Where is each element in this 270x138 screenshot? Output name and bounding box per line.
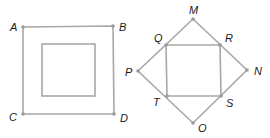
point-q bbox=[164, 43, 168, 47]
label-o: O bbox=[198, 122, 207, 134]
figure-abcd: A B C D bbox=[9, 21, 128, 124]
label-n: N bbox=[254, 65, 262, 77]
label-a: A bbox=[9, 21, 17, 33]
point-a bbox=[21, 25, 25, 29]
label-r: R bbox=[225, 32, 233, 44]
point-d bbox=[112, 112, 116, 116]
geometry-diagram: A B C D M Q R P N T S O bbox=[0, 0, 270, 138]
point-s bbox=[219, 94, 223, 98]
label-c: C bbox=[9, 111, 17, 123]
label-m: M bbox=[189, 4, 199, 16]
figure-mnop: M Q R P N T S O bbox=[125, 4, 262, 134]
point-t bbox=[165, 94, 169, 98]
inner-square-qrst bbox=[166, 45, 221, 96]
label-q: Q bbox=[154, 32, 163, 44]
point-m bbox=[191, 17, 195, 21]
point-n bbox=[245, 68, 249, 72]
inner-square-left bbox=[42, 44, 95, 96]
label-d: D bbox=[120, 112, 128, 124]
point-b bbox=[111, 24, 115, 28]
label-p: P bbox=[125, 66, 133, 78]
outer-square-abcd bbox=[23, 26, 114, 114]
label-b: B bbox=[119, 21, 126, 33]
label-s: S bbox=[226, 97, 234, 109]
point-p bbox=[136, 69, 140, 73]
point-r bbox=[218, 43, 222, 47]
point-o bbox=[191, 121, 195, 125]
point-c bbox=[21, 112, 25, 116]
label-t: T bbox=[153, 96, 161, 108]
